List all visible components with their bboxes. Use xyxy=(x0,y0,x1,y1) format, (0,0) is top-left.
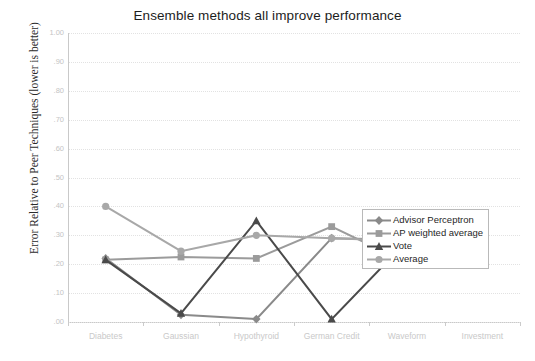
chart-root: Ensemble methods all improve performance… xyxy=(0,0,535,361)
y-tick-label: .40 xyxy=(40,201,64,210)
y-tick-label: .90 xyxy=(40,57,64,66)
legend-label: Average xyxy=(392,253,428,264)
series-layer xyxy=(68,33,520,322)
data-point-marker xyxy=(376,230,383,237)
y-tick-label: .70 xyxy=(40,115,64,124)
legend-item-ap-weighted-average[interactable]: AP weighted average xyxy=(366,226,483,239)
plot-area: 1.00.90.80.70.60.50.40.30.20.10.00 Diabe… xyxy=(68,33,520,322)
data-point-marker xyxy=(252,216,260,224)
x-tick-label: Hypothyroid xyxy=(219,331,294,341)
legend-item-average[interactable]: Average xyxy=(366,252,483,265)
legend-label: Advisor Perceptron xyxy=(392,214,474,225)
legend-marker-icon xyxy=(366,239,392,252)
x-tick-label: Waveform xyxy=(369,331,444,341)
x-tick-mark xyxy=(294,322,295,326)
y-tick-label: .80 xyxy=(40,86,64,95)
x-tick-label: Investment xyxy=(445,331,520,341)
y-tick-label: 1.00 xyxy=(40,28,64,37)
x-tick-label: German Credit xyxy=(294,331,369,341)
x-tick-mark xyxy=(445,322,446,326)
y-tick-label: .60 xyxy=(40,144,64,153)
legend-label: Vote xyxy=(392,240,412,251)
data-point-marker xyxy=(177,248,184,255)
legend-item-vote[interactable]: Vote xyxy=(366,239,483,252)
x-tick-label: Gaussian xyxy=(143,331,218,341)
data-point-marker xyxy=(375,256,382,263)
y-tick-label: .10 xyxy=(40,288,64,297)
y-tick-label: .30 xyxy=(40,230,64,239)
legend-label: AP weighted average xyxy=(392,227,483,238)
data-point-marker xyxy=(328,235,335,242)
data-point-marker xyxy=(253,232,260,239)
data-point-marker xyxy=(253,255,260,262)
data-point-marker xyxy=(328,223,335,230)
data-point-marker xyxy=(102,203,109,210)
legend-marker-icon xyxy=(366,213,392,226)
legend: Advisor PerceptronAP weighted averageVot… xyxy=(362,209,489,269)
x-tick-mark xyxy=(68,322,69,326)
y-tick-label: .50 xyxy=(40,173,64,182)
x-tick-mark xyxy=(219,322,220,326)
legend-marker-icon xyxy=(366,226,392,239)
chart-title: Ensemble methods all improve performance xyxy=(0,8,535,23)
x-tick-mark xyxy=(369,322,370,326)
y-tick-label: .00 xyxy=(40,317,64,326)
legend-item-advisor-perceptron[interactable]: Advisor Perceptron xyxy=(366,213,483,226)
x-tick-mark xyxy=(143,322,144,326)
y-axis-label: Error Relative to Peer Techniques (lower… xyxy=(28,8,40,268)
x-tick-mark xyxy=(520,322,521,326)
data-point-marker xyxy=(375,216,383,225)
x-tick-label: Diabetes xyxy=(68,331,143,341)
legend-marker-icon xyxy=(366,252,392,265)
y-tick-label: .20 xyxy=(40,259,64,268)
